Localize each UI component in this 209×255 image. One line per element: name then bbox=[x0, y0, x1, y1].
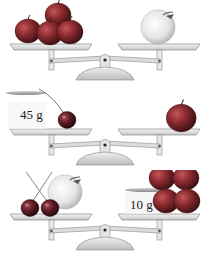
cherry-icon bbox=[41, 200, 59, 217]
red-apple-icon bbox=[166, 100, 196, 132]
balance-scale-3: 10 g bbox=[0, 165, 209, 255]
scale-body bbox=[10, 214, 200, 250]
red-apple-icon bbox=[174, 185, 200, 213]
cherry-icon bbox=[21, 200, 39, 217]
balance-scale-1 bbox=[0, 0, 209, 85]
weight-label-10g: 10 g bbox=[130, 197, 153, 213]
balance-scale-2: 45 g bbox=[0, 85, 209, 170]
scale-body bbox=[10, 44, 200, 80]
red-apple-icon bbox=[149, 170, 175, 190]
cherry-icon bbox=[58, 112, 76, 129]
weight-plate-icon bbox=[6, 91, 46, 95]
pale-fruit-icon bbox=[141, 10, 175, 44]
left-pan-apples bbox=[15, 0, 83, 45]
red-apple-icon bbox=[173, 170, 199, 190]
weight-label-45g: 45 g bbox=[20, 107, 43, 123]
scale-body bbox=[10, 129, 200, 165]
red-apple-icon bbox=[15, 15, 41, 43]
right-pan-apple bbox=[166, 100, 196, 132]
right-pan-pale-fruit bbox=[141, 10, 175, 44]
